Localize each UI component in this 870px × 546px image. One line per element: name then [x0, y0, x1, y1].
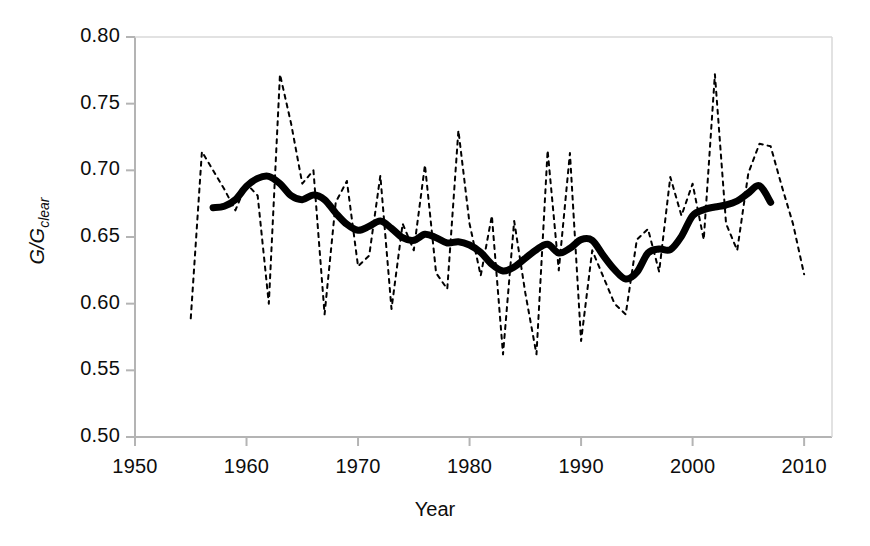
x-tick-marks: [135, 437, 804, 446]
series-annual-dashed: [191, 74, 804, 354]
y-tick-marks: [126, 37, 135, 437]
x-tick-label: 1960: [202, 455, 292, 478]
x-tick-label: 1980: [425, 455, 515, 478]
x-tick-label: 1950: [90, 455, 180, 478]
axes-group: [126, 37, 832, 446]
y-tick-label: 0.65: [48, 224, 120, 247]
y-axis-title: G/Gclear: [26, 156, 52, 306]
y-tick-label: 0.80: [48, 24, 120, 47]
y-tick-label: 0.60: [48, 291, 120, 314]
y-tick-label: 0.75: [48, 91, 120, 114]
y-tick-label: 0.50: [48, 424, 120, 447]
y-axis-title-subscript: clear: [36, 197, 52, 227]
y-axis-title-main: G/G: [26, 228, 48, 265]
chart-figure: 0.500.550.600.650.700.750.80 19501960197…: [0, 0, 870, 546]
x-tick-label: 1970: [313, 455, 403, 478]
x-tick-label: 2000: [648, 455, 738, 478]
x-tick-label: 2010: [759, 455, 849, 478]
y-tick-label: 0.55: [48, 357, 120, 380]
x-axis-title: Year: [0, 498, 870, 521]
x-tick-label: 1990: [536, 455, 626, 478]
y-tick-label: 0.70: [48, 157, 120, 180]
series-group: [191, 74, 804, 354]
